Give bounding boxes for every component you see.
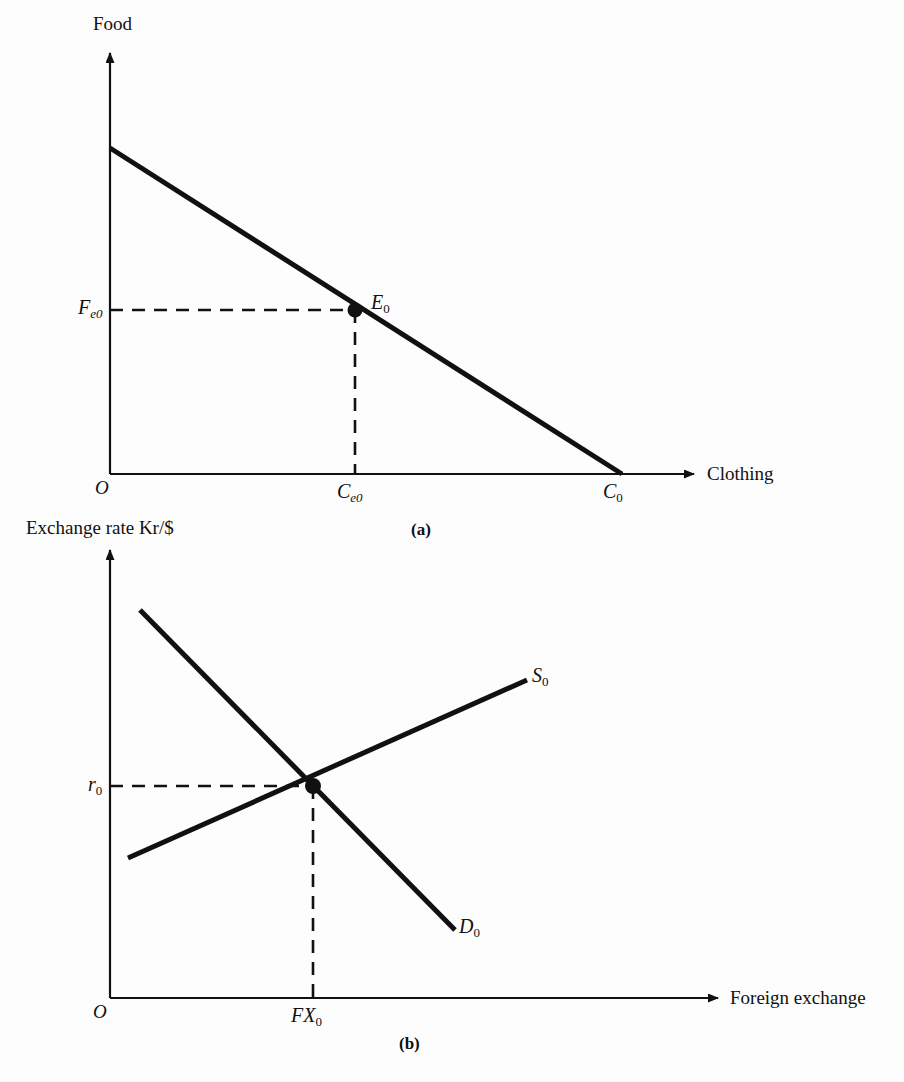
panel-b-x-tick-base: FX xyxy=(291,1004,315,1026)
panel-b-origin-label: O xyxy=(93,1002,107,1021)
panel-b-supply-base: S xyxy=(532,664,542,686)
panel-b-supply-curve-label-S0: S0 xyxy=(532,665,549,688)
panel-a-x-tick-base: C xyxy=(337,480,350,502)
panel-a-y-tick-base: F xyxy=(78,296,90,318)
panel-a-equilibrium-point xyxy=(348,303,363,318)
panel-a-graph xyxy=(110,53,694,474)
panel-b-y-axis-label: Exchange rate Kr/$ xyxy=(26,518,174,537)
panel-a-y-axis-label: Food xyxy=(93,14,132,33)
panel-b-supply-sub: 0 xyxy=(542,674,549,689)
panel-b-y-tick-base: r xyxy=(88,773,96,795)
panel-a-equilibrium-base: E xyxy=(371,291,383,313)
panel-b-caption: (b) xyxy=(399,1035,420,1052)
panel-a-equilibrium-sub: 0 xyxy=(383,301,390,316)
panel-b-y-tick-sub: 0 xyxy=(96,783,103,798)
panel-b-supply-curve xyxy=(128,680,527,858)
panel-b-x-tick-label-FX0: FX0 xyxy=(291,1005,322,1028)
panel-b-equilibrium-point xyxy=(305,778,321,794)
panel-b-demand-curve-label-D0: D0 xyxy=(459,916,480,939)
panel-a-x-intercept-sub: 0 xyxy=(616,490,623,505)
panel-b-graph xyxy=(110,550,718,998)
panel-b-x-axis-label: Foreign exchange xyxy=(730,988,866,1007)
panel-b-demand-sub: 0 xyxy=(473,925,480,940)
panel-b-demand-base: D xyxy=(459,915,473,937)
panel-a-x-axis-label: Clothing xyxy=(707,464,774,483)
figure-canvas xyxy=(0,0,904,1082)
panel-a-y-tick-label-Fe0: Fe0 xyxy=(78,297,103,320)
panel-b-demand-curve xyxy=(140,610,455,930)
panel-a-x-tick-label-Ce0: Ce0 xyxy=(337,481,363,504)
panel-a-x-intercept-label-C0: C0 xyxy=(603,481,623,504)
panel-a-equilibrium-label-E0: E0 xyxy=(371,292,390,315)
panel-a-origin-label: O xyxy=(95,478,109,497)
panel-b-y-tick-label-r0: r0 xyxy=(88,774,102,797)
panel-a-x-intercept-base: C xyxy=(603,480,616,502)
figure-root: · · · · · · · · · · xyxy=(0,0,904,1082)
panel-a-y-tick-sub: e0 xyxy=(90,306,102,321)
panel-a-x-tick-sub: e0 xyxy=(350,490,362,505)
panel-a-caption: (a) xyxy=(411,521,431,538)
panel-b-x-tick-sub: 0 xyxy=(315,1014,322,1029)
